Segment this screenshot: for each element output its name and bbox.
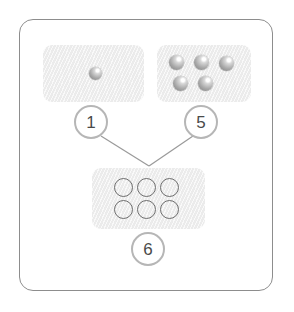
- badge-product-6: 6: [131, 232, 165, 266]
- ring: [114, 178, 133, 197]
- panel-reactant-2: [157, 45, 251, 102]
- ring: [137, 178, 156, 197]
- badge-reactant-5: 5: [184, 105, 218, 139]
- badge-reactant-1: 1: [74, 105, 108, 139]
- diagram-canvas: 1 5 6: [0, 0, 294, 312]
- sphere: [173, 76, 188, 91]
- panel-product: [92, 168, 205, 229]
- badge-label: 1: [86, 114, 95, 131]
- sphere: [89, 67, 102, 80]
- sphere: [194, 55, 209, 70]
- ring: [137, 200, 156, 219]
- ring: [160, 178, 179, 197]
- sphere: [169, 55, 184, 70]
- panel-reactant-1: [43, 45, 144, 102]
- badge-label: 6: [143, 241, 152, 258]
- ring: [160, 200, 179, 219]
- sphere: [219, 56, 234, 71]
- sphere: [198, 76, 213, 91]
- ring: [114, 200, 133, 219]
- badge-label: 5: [196, 114, 205, 131]
